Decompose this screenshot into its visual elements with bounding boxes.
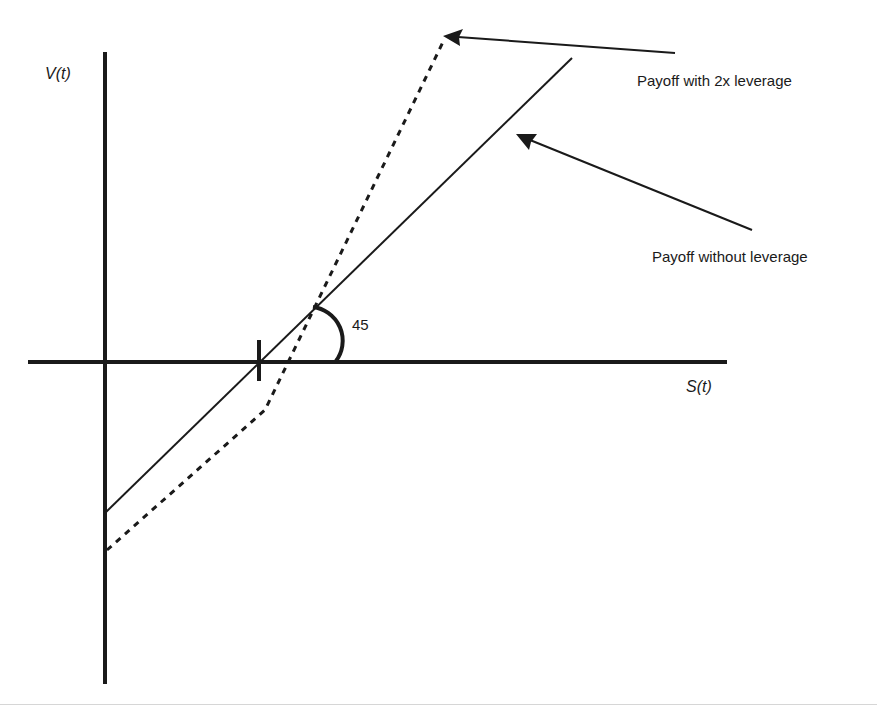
bottom-divider [0,704,877,705]
angle-label: 45 [352,316,369,333]
x-axis-label: S(t) [686,378,712,395]
payoff-diagram: V(t) S(t) 45 Payoff with 2x leverage Pay… [0,0,877,711]
annotation-leveraged: Payoff with 2x leverage [637,72,792,89]
angle-arc [313,307,343,361]
arrow-leveraged [458,37,675,53]
annotation-unleveraged: Payoff without leverage [652,248,808,265]
payoff-without-leverage-line [105,58,572,513]
y-axis-label: V(t) [45,65,71,82]
arrow-unleveraged [530,140,752,230]
payoff-with-2x-leverage-line [107,42,443,550]
